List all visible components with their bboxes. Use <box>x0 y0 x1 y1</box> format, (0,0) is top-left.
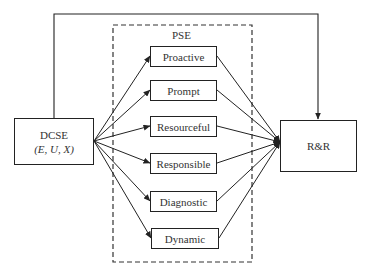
fan-out-edges <box>94 56 151 238</box>
rr-title: R&R <box>307 139 330 153</box>
node-dynamic: Dynamic <box>151 228 219 249</box>
node-label: Prompt <box>167 84 199 98</box>
dcse-subtitle: (E, U, X) <box>34 142 74 156</box>
node-diagnostic: Diagnostic <box>150 191 217 212</box>
node-label: Dynamic <box>165 232 205 246</box>
node-proactive: Proactive <box>150 46 217 67</box>
node-responsible: Responsible <box>150 153 217 174</box>
pse-group-label: PSE <box>172 29 191 41</box>
dcse-title: DCSE <box>40 128 68 142</box>
node-prompt: Prompt <box>150 80 217 101</box>
node-label: Proactive <box>163 50 205 64</box>
node-resourceful: Resourceful <box>150 116 217 137</box>
dcse-node: DCSE (E, U, X) <box>14 118 94 165</box>
node-label: Diagnostic <box>160 195 208 209</box>
rr-node: R&R <box>280 120 357 172</box>
fan-in-edges <box>217 56 280 238</box>
node-label: Responsible <box>157 157 211 171</box>
node-label: Resourceful <box>157 120 210 134</box>
